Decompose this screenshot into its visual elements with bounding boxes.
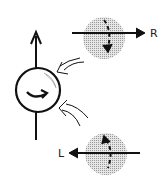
spinning-ball <box>16 68 60 112</box>
incoming-flow-upper-arrow-icon <box>57 58 84 74</box>
disk-right <box>72 17 145 59</box>
label-left: L <box>58 148 64 159</box>
incoming-flow-lower-arrow-icon <box>59 100 88 126</box>
diagram-canvas <box>0 0 164 189</box>
disk-left <box>69 133 140 175</box>
label-right: R <box>150 28 158 39</box>
